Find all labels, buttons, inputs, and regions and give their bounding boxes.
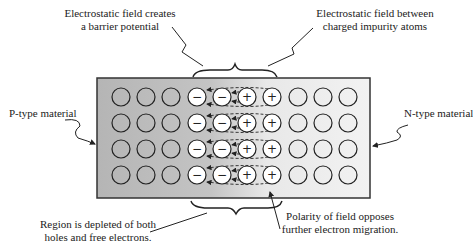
plus-sign: + xyxy=(267,90,277,104)
plus-sign: + xyxy=(242,142,252,156)
label-line: further electron migration. xyxy=(280,223,400,236)
minus-sign: − xyxy=(192,116,202,130)
label-polarity: Polarity of field opposes further electr… xyxy=(280,210,400,236)
brace-top xyxy=(193,64,277,77)
label-line: charged impurity atoms xyxy=(310,20,440,33)
label-impurity-field: Electrostatic field between charged impu… xyxy=(310,7,440,33)
label-n-type: N-type material xyxy=(404,107,473,120)
plus-sign: + xyxy=(267,168,277,182)
label-line: Polarity of field opposes xyxy=(280,210,400,223)
label-line: a barrier potential xyxy=(60,20,180,33)
leader-impurity xyxy=(268,28,313,66)
leader-p-type xyxy=(65,120,95,144)
brace-bottom xyxy=(191,201,282,214)
label-p-type: P-type material xyxy=(9,107,77,120)
plus-sign: + xyxy=(242,168,252,182)
label-depleted: Region is depleted of both holes and fre… xyxy=(38,218,158,244)
plus-sign: + xyxy=(267,116,277,130)
minus-sign: − xyxy=(192,142,202,156)
leader-n-type xyxy=(373,125,408,146)
plus-sign: + xyxy=(242,116,252,130)
minus-sign: − xyxy=(217,116,227,130)
minus-sign: − xyxy=(192,90,202,104)
minus-sign: − xyxy=(217,168,227,182)
label-barrier-potential: Electrostatic field creates a barrier po… xyxy=(60,7,180,33)
leader-depleted xyxy=(150,213,207,232)
plus-sign: + xyxy=(267,142,277,156)
label-line: Electrostatic field between xyxy=(310,7,440,20)
label-line: Electrostatic field creates xyxy=(60,7,180,20)
minus-sign: − xyxy=(192,168,202,182)
label-line: holes and free electrons. xyxy=(38,231,158,244)
minus-sign: − xyxy=(217,142,227,156)
minus-sign: − xyxy=(217,90,227,104)
label-line: Region is depleted of both xyxy=(38,218,158,231)
plus-sign: + xyxy=(242,90,252,104)
